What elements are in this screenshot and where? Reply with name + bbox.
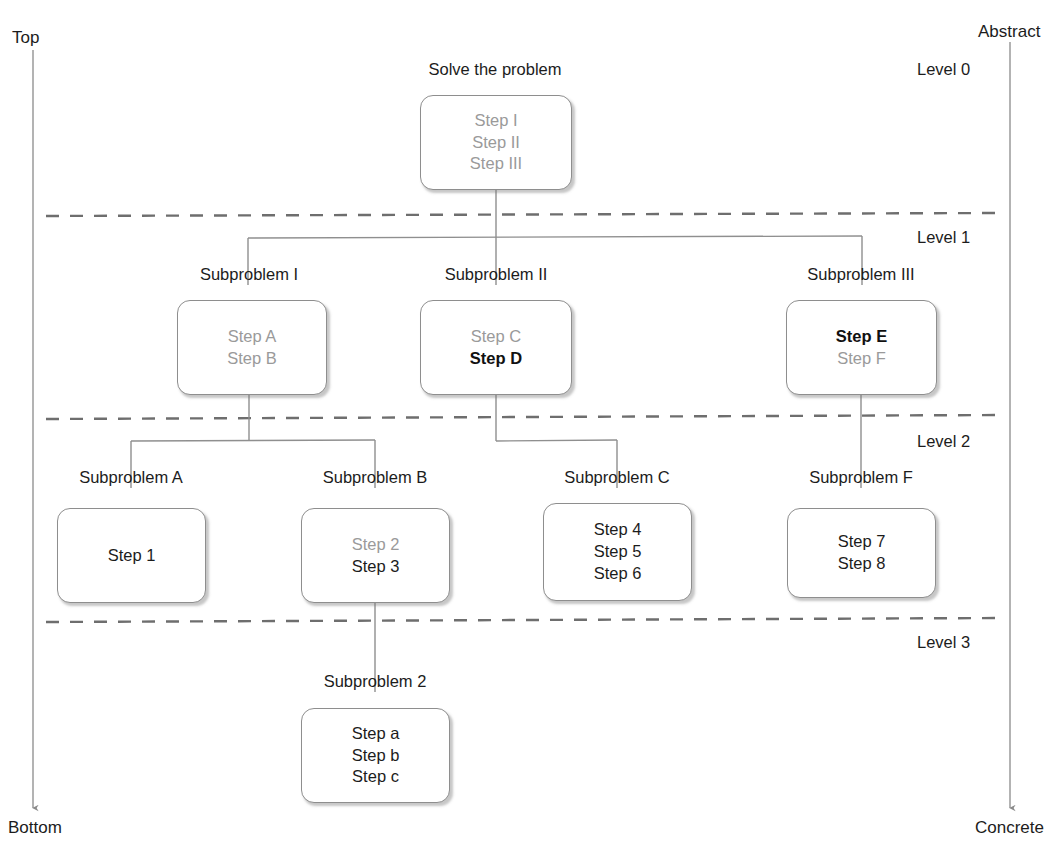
- step-text: Step 8: [838, 553, 886, 575]
- diagram-canvas: Top Bottom Abstract Concrete Level 0 Lev…: [0, 0, 1055, 847]
- step-text: Step F: [837, 348, 886, 370]
- level-label-3: Level 3: [917, 633, 970, 652]
- step-text: Step 2: [352, 534, 400, 556]
- node-subproblem-2[interactable]: Step a Step b Step c: [301, 708, 450, 803]
- node-label-subproblem-2: Subproblem 2: [324, 672, 427, 691]
- level-label-1: Level 1: [917, 228, 970, 247]
- step-text: Step A: [228, 326, 277, 348]
- step-text: Step 4: [594, 519, 642, 541]
- axis-label-top: Top: [12, 28, 39, 48]
- node-label-subproblem-ii: Subproblem II: [445, 265, 548, 284]
- node-label-subproblem-c: Subproblem C: [564, 468, 669, 487]
- node-label-subproblem-f: Subproblem F: [809, 468, 913, 487]
- node-subproblem-c[interactable]: Step 4 Step 5 Step 6: [543, 503, 692, 601]
- node-subproblem-b[interactable]: Step 2 Step 3: [301, 508, 450, 603]
- node-subproblem-i[interactable]: Step A Step B: [177, 300, 327, 395]
- step-text: Step B: [227, 348, 277, 370]
- step-text: Step 6: [594, 563, 642, 585]
- node-label-subproblem-a: Subproblem A: [79, 468, 183, 487]
- step-text: Step 5: [594, 541, 642, 563]
- step-text: Step III: [470, 153, 522, 175]
- step-text: Step E: [836, 326, 887, 348]
- node-solve-the-problem[interactable]: Step I Step II Step III: [420, 95, 572, 190]
- node-label-subproblem-iii: Subproblem III: [807, 265, 914, 284]
- node-label-subproblem-b: Subproblem B: [323, 468, 428, 487]
- step-text: Step II: [472, 132, 520, 154]
- step-text: Step I: [474, 110, 517, 132]
- level-label-2: Level 2: [917, 432, 970, 451]
- step-text: Step 1: [108, 545, 156, 567]
- node-label-root: Solve the problem: [429, 60, 562, 79]
- divider-level-0-1: [46, 213, 1000, 216]
- level-label-0: Level 0: [917, 60, 970, 79]
- axis-label-bottom: Bottom: [8, 818, 62, 838]
- node-subproblem-iii[interactable]: Step E Step F: [786, 300, 937, 395]
- step-text: Step D: [470, 348, 522, 370]
- node-subproblem-ii[interactable]: Step C Step D: [420, 300, 572, 395]
- step-text: Step 7: [838, 531, 886, 553]
- divider-level-1-2: [46, 415, 1000, 419]
- connector-root-to-level1: [248, 190, 862, 285]
- axis-label-concrete: Concrete: [975, 818, 1044, 838]
- step-text: Step a: [352, 723, 400, 745]
- step-text: Step 3: [352, 556, 400, 578]
- node-subproblem-f[interactable]: Step 7 Step 8: [787, 508, 936, 598]
- axis-label-abstract: Abstract: [978, 22, 1040, 42]
- node-label-subproblem-i: Subproblem I: [200, 265, 298, 284]
- node-subproblem-a[interactable]: Step 1: [57, 508, 206, 603]
- step-text: Step b: [352, 745, 400, 767]
- step-text: Step c: [352, 766, 399, 788]
- divider-level-2-3: [46, 618, 1000, 622]
- step-text: Step C: [471, 326, 521, 348]
